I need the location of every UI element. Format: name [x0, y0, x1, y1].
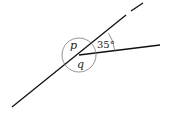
ray	[79, 45, 160, 55]
straight-line-upper	[131, 3, 143, 11]
label-35-degrees: 35°	[97, 39, 115, 50]
label-p: p	[70, 39, 77, 52]
angle-diagram: p q 35°	[0, 0, 170, 116]
label-q: q	[77, 58, 84, 71]
straight-line-lower	[12, 15, 126, 107]
